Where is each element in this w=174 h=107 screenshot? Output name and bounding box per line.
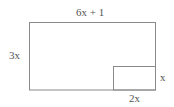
outer-rectangle <box>30 23 156 91</box>
left-side-label: 3x <box>9 50 20 61</box>
inner-right-label: x <box>160 72 166 83</box>
top-side-label: 6x + 1 <box>76 7 104 18</box>
inner-rectangle <box>114 67 156 91</box>
inner-bottom-label: 2x <box>129 93 140 104</box>
